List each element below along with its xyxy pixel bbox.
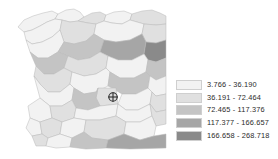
legend-swatch [176, 118, 202, 128]
legend-swatch [176, 80, 202, 90]
legend-label: 36.191 - 72.464 [207, 94, 261, 102]
tract-region [142, 24, 166, 43]
legend-swatch [176, 131, 202, 141]
choropleth-map-figure: 3.766 - 36.190 36.191 - 72.464 72.465 - … [0, 0, 278, 159]
legend-row: 117.377 - 166.657 [176, 117, 276, 130]
map-canvas [0, 0, 175, 159]
map-legend: 3.766 - 36.190 36.191 - 72.464 72.465 - … [176, 79, 276, 145]
legend-swatch [176, 105, 202, 115]
legend-label: 72.465 - 117.376 [207, 106, 265, 114]
legend-label: 166.658 - 268.718 [207, 132, 270, 140]
legend-row: 166.658 - 268.718 [176, 129, 276, 142]
legend-label: 117.377 - 166.657 [207, 119, 269, 127]
legend-label: 3.766 - 36.190 [207, 81, 257, 89]
legend-row: 36.191 - 72.464 [176, 92, 276, 105]
legend-row: 3.766 - 36.190 [176, 79, 276, 92]
legend-row: 72.465 - 117.376 [176, 104, 276, 117]
legend-swatch [176, 93, 202, 103]
map-svg [0, 0, 175, 159]
